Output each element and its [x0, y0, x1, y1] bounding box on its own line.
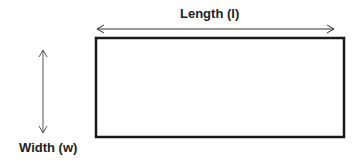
width-label: Width (w)	[19, 140, 77, 155]
width-arrow-icon	[39, 50, 47, 133]
diagram-canvas	[0, 0, 361, 163]
rectangle-shape	[96, 38, 344, 137]
length-label: Length (l)	[180, 6, 239, 21]
length-arrow-icon	[97, 25, 334, 33]
